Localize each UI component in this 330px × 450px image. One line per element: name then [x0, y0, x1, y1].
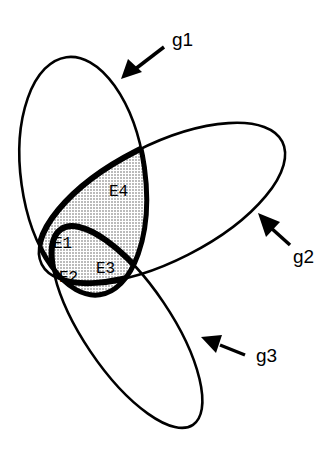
- g2-arrow-icon: [258, 213, 290, 245]
- g1-arrow-icon: [121, 47, 164, 79]
- label-g2: g2: [293, 246, 314, 267]
- venn-diagram: g1 g2 g3 E4 E1 E2 E3: [0, 0, 330, 450]
- region-label-e4: E4: [109, 183, 128, 201]
- label-g1: g1: [172, 29, 193, 50]
- g3-arrow-icon: [201, 335, 245, 355]
- label-g3: g3: [256, 345, 277, 366]
- region-label-e2: E2: [59, 269, 78, 287]
- region-label-e3: E3: [96, 260, 115, 278]
- region-label-e1: E1: [53, 235, 72, 253]
